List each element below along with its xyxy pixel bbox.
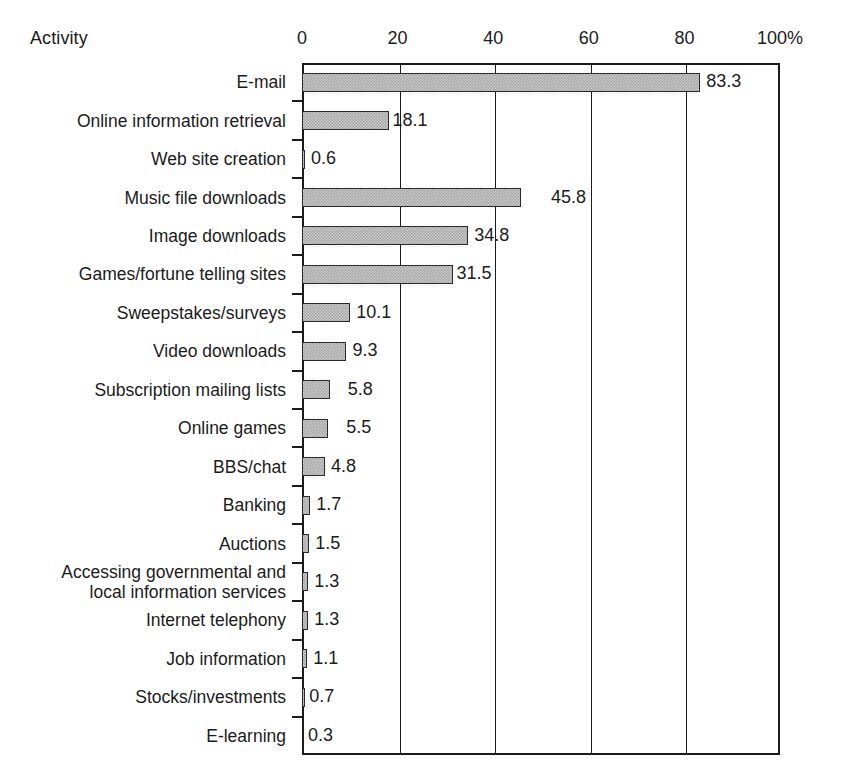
bar-row: Online games5.5 (0, 409, 842, 447)
category-label: Job information (0, 649, 286, 669)
bar-value-label: 0.7 (309, 686, 334, 707)
bar-value-label: 34.8 (474, 225, 509, 246)
bar (302, 73, 700, 92)
bar-value-label: 1.7 (316, 494, 341, 515)
bar-row: E-learning0.3 (0, 717, 842, 755)
bar-row: Job information1.1 (0, 640, 842, 678)
x-tick-label: 40 (483, 28, 503, 49)
bar-row: Image downloads34.8 (0, 217, 842, 255)
bar-value-label: 83.3 (706, 71, 741, 92)
bar-value-label: 1.5 (315, 533, 340, 554)
bar (302, 572, 308, 591)
category-label: Stocks/investments (0, 687, 286, 707)
category-label: Web site creation (0, 149, 286, 169)
bar-row: Online information retrieval18.1 (0, 101, 842, 139)
bar (302, 303, 350, 322)
bar (302, 688, 305, 707)
x-tick-label: 80 (674, 28, 694, 49)
category-label: Online games (0, 418, 286, 438)
x-tick-label: 20 (388, 28, 408, 49)
bar (302, 265, 453, 284)
bar-value-label: 9.3 (352, 340, 377, 361)
bar-row: Stocks/investments0.7 (0, 678, 842, 716)
bar-row: Accessing governmental and local informa… (0, 563, 842, 601)
bar-value-label: 1.1 (313, 648, 338, 669)
bar (302, 380, 330, 399)
bar (302, 496, 310, 515)
category-label: Banking (0, 495, 286, 515)
bar (302, 419, 328, 438)
category-label: E-mail (0, 72, 286, 92)
category-label: BBS/chat (0, 457, 286, 477)
bar-row: Auctions1.5 (0, 524, 842, 562)
x-tick-label: 100% (757, 28, 803, 49)
bar-value-label: 0.6 (311, 148, 336, 169)
bar (302, 611, 308, 630)
bar-row: Web site creation0.6 (0, 140, 842, 178)
bar-row: Music file downloads45.8 (0, 178, 842, 216)
category-label: Music file downloads (0, 188, 286, 208)
x-tick-label: 0 (297, 28, 307, 49)
bar-value-label: 5.5 (346, 417, 371, 438)
bar-value-label: 18.1 (393, 110, 428, 131)
bar-value-label: 0.3 (308, 725, 333, 746)
bar-row: Internet telephony1.3 (0, 601, 842, 639)
category-label: E-learning (0, 726, 286, 746)
bar (302, 111, 389, 130)
bar-rows: E-mail83.3Online information retrieval18… (0, 63, 842, 755)
bar-row: Video downloads9.3 (0, 332, 842, 370)
x-tick-label: 60 (579, 28, 599, 49)
bar (302, 188, 521, 207)
bar (302, 649, 307, 668)
bar (302, 342, 346, 361)
category-label: Auctions (0, 534, 286, 554)
category-label: Games/fortune telling sites (0, 264, 286, 284)
bar-value-label: 45.8 (551, 187, 586, 208)
category-label: Image downloads (0, 226, 286, 246)
bar-row: BBS/chat4.8 (0, 447, 842, 485)
bar-value-label: 1.3 (314, 609, 339, 630)
category-label: Internet telephony (0, 610, 286, 630)
category-label: Subscription mailing lists (0, 380, 286, 400)
bar-row: Banking1.7 (0, 486, 842, 524)
bar (302, 226, 468, 245)
bar-row: E-mail83.3 (0, 63, 842, 101)
bar-row: Sweepstakes/surveys10.1 (0, 294, 842, 332)
bar-value-label: 5.8 (348, 379, 373, 400)
bar-value-label: 31.5 (457, 263, 492, 284)
category-label: Accessing governmental and local informa… (0, 562, 286, 602)
bar (302, 534, 309, 553)
bar-chart: Activity 020406080100% E-mail83.3Online … (0, 0, 842, 777)
x-axis-tick-labels: 020406080100% (0, 28, 842, 52)
bar-value-label: 10.1 (356, 302, 391, 323)
category-label: Sweepstakes/surveys (0, 303, 286, 323)
category-label: Online information retrieval (0, 111, 286, 131)
bar-value-label: 4.8 (331, 456, 356, 477)
bar-row: Subscription mailing lists5.8 (0, 371, 842, 409)
bar-row: Games/fortune telling sites31.5 (0, 255, 842, 293)
category-label: Video downloads (0, 341, 286, 361)
bar-value-label: 1.3 (314, 571, 339, 592)
bar (302, 150, 305, 169)
bar (302, 457, 325, 476)
